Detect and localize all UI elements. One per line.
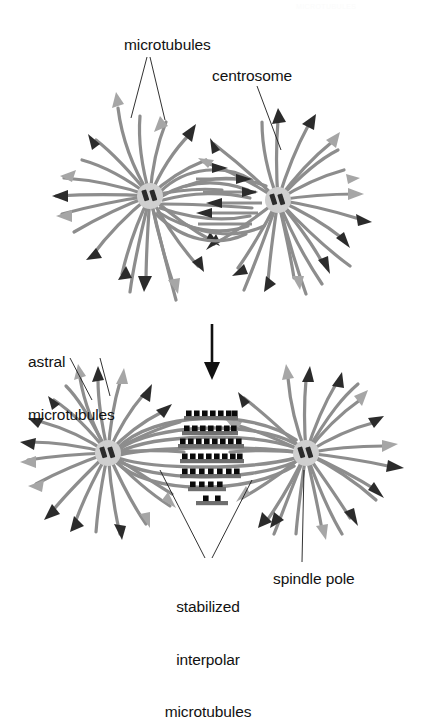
leader-microtubules-b xyxy=(150,57,165,120)
arrow-dark xyxy=(118,266,132,280)
arrow-light xyxy=(154,116,168,132)
label-astral-line2: microtubules xyxy=(28,406,115,424)
label-spindle-pole: spindle pole xyxy=(273,570,355,588)
arrow-light xyxy=(316,524,328,540)
overlap-row xyxy=(184,411,238,421)
arrow-dark xyxy=(302,366,314,382)
arrow-light xyxy=(348,188,364,200)
top-panel xyxy=(52,57,372,300)
arrow-dark xyxy=(302,114,316,130)
centrosome-right xyxy=(265,187,291,213)
leader-stabilized-b xyxy=(212,480,252,558)
arrow-dark xyxy=(140,384,152,402)
label-microtubules: microtubules xyxy=(124,36,211,54)
arrow-light xyxy=(116,368,128,384)
label-stabilized-line3: microtubules xyxy=(148,703,268,721)
label-astral-line1: astral xyxy=(28,353,115,371)
arrow-light xyxy=(112,92,124,108)
label-stabilized-interpolar-microtubules: stabilized interpolar microtubules xyxy=(148,563,268,721)
arrow-dark xyxy=(156,404,172,418)
leader-stabilized-a xyxy=(160,470,205,558)
arrow-dark xyxy=(242,187,258,197)
arrow-light xyxy=(28,480,44,492)
label-stabilized-line1: stabilized xyxy=(148,598,268,616)
arrow-light xyxy=(56,210,72,222)
arrow-dark xyxy=(138,276,152,292)
arrow-dark xyxy=(356,214,372,226)
arrow-dark xyxy=(386,460,404,472)
overlap-row xyxy=(178,439,244,449)
spindle-pole-right xyxy=(293,440,319,466)
arrow-dark xyxy=(332,372,344,388)
arrow-dark xyxy=(114,524,126,540)
page-header-fragment: MICROTUBULES xyxy=(296,0,356,16)
centrosome-left xyxy=(137,183,163,209)
label-astral-microtubules: astral microtubules xyxy=(28,318,115,458)
arrow-dark xyxy=(264,276,276,292)
arrow-light xyxy=(282,364,294,380)
arrow-dark xyxy=(272,108,286,124)
overlap-row xyxy=(180,454,244,464)
label-centrosome: centrosome xyxy=(212,67,292,85)
arrow-dark xyxy=(192,256,204,272)
arrowhead xyxy=(204,362,220,380)
arrow-light xyxy=(346,174,360,184)
leader-microtubules-a xyxy=(131,57,147,118)
arrow-dark xyxy=(86,248,102,260)
overlap-row xyxy=(180,469,241,479)
arrow-dark xyxy=(52,190,68,202)
label-stabilized-line2: interpolar xyxy=(148,651,268,669)
transition-arrow xyxy=(204,324,220,380)
arrow-light xyxy=(382,440,398,452)
overlap-row xyxy=(196,496,228,506)
